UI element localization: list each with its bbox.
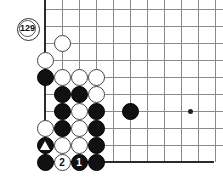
stone-black[interactable] bbox=[54, 86, 71, 103]
stone-white[interactable] bbox=[37, 52, 54, 69]
stone-white[interactable] bbox=[54, 35, 71, 52]
grid-line-vertical bbox=[215, 0, 216, 162]
grid-line-vertical bbox=[113, 0, 114, 162]
stone-black[interactable] bbox=[88, 103, 105, 120]
stone-black[interactable] bbox=[88, 120, 105, 137]
stone-white[interactable] bbox=[71, 120, 88, 137]
stone-white[interactable] bbox=[54, 69, 71, 86]
grid-line-vertical bbox=[130, 0, 131, 162]
stone-black[interactable] bbox=[37, 69, 54, 86]
stone-black[interactable] bbox=[37, 154, 54, 171]
stone-black[interactable] bbox=[88, 154, 105, 171]
stone-white[interactable] bbox=[54, 137, 71, 154]
move-number-label: 129 bbox=[18, 19, 38, 39]
stone-move-number: 2 bbox=[54, 154, 71, 171]
stone-move-number: 1 bbox=[71, 154, 88, 171]
stone-white[interactable] bbox=[71, 103, 88, 120]
stone-black[interactable] bbox=[88, 137, 105, 154]
stone-white[interactable] bbox=[71, 69, 88, 86]
grid-line-vertical bbox=[147, 0, 148, 162]
stone-black[interactable] bbox=[71, 86, 88, 103]
stone-white[interactable] bbox=[37, 120, 54, 137]
triangle-mark-icon bbox=[40, 141, 50, 150]
go-board-diagram: 21 129 bbox=[0, 0, 223, 177]
grid-line-horizontal bbox=[45, 60, 223, 61]
grid-line-horizontal bbox=[45, 9, 223, 10]
grid-line-vertical bbox=[198, 0, 199, 162]
grid-line-vertical bbox=[181, 0, 182, 162]
grid-line-horizontal bbox=[45, 26, 223, 27]
stone-black[interactable] bbox=[54, 103, 71, 120]
stone-black[interactable] bbox=[54, 120, 71, 137]
stone-white[interactable] bbox=[88, 86, 105, 103]
stone-black[interactable] bbox=[122, 103, 139, 120]
stone-white[interactable] bbox=[71, 137, 88, 154]
stone-white[interactable] bbox=[88, 69, 105, 86]
grid-line-vertical bbox=[164, 0, 165, 162]
star-point bbox=[188, 109, 193, 114]
grid-line-horizontal bbox=[45, 43, 223, 44]
move-number-marker[interactable]: 129 bbox=[17, 18, 40, 41]
